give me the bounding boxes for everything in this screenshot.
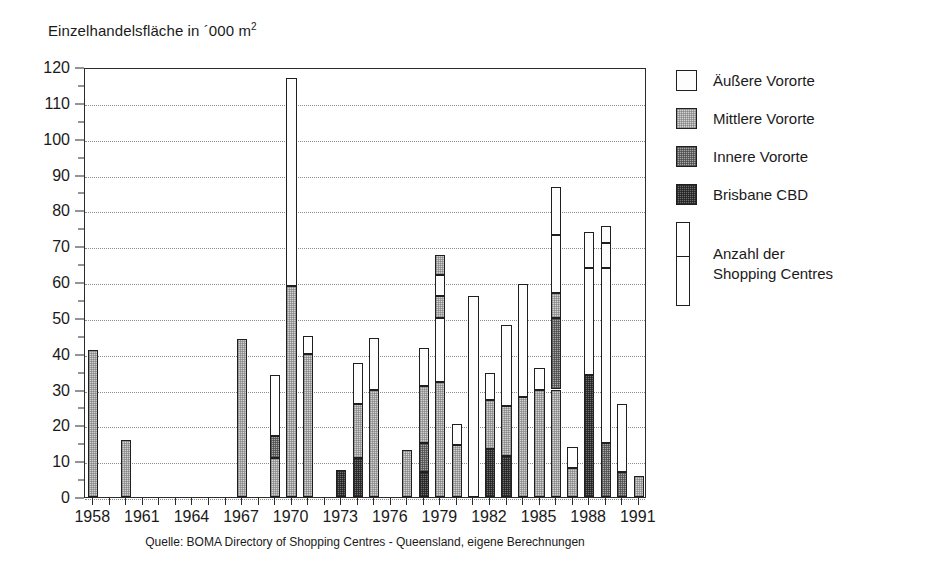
legend-count-label: Anzahl der Shopping Centres (713, 244, 833, 284)
bar-1983 (501, 325, 511, 497)
bar-segment-outer (452, 424, 462, 446)
bar-1977 (402, 450, 412, 497)
x-tick (109, 498, 110, 505)
x-tick (225, 498, 226, 505)
x-tick (241, 498, 242, 505)
bar-segment-middle (121, 440, 131, 497)
x-tick (638, 498, 639, 505)
x-tick (291, 498, 292, 505)
x-tick (357, 498, 358, 505)
bar-segment-cbd (336, 470, 346, 497)
x-tick (142, 498, 143, 505)
x-tick (175, 498, 176, 505)
legend-label-inner: Innere Vororte (713, 146, 808, 167)
x-tick-label: 1976 (372, 508, 408, 526)
x-tick-label: 1961 (124, 508, 160, 526)
bar-segment-inner (551, 318, 561, 390)
bar-1991 (634, 476, 644, 498)
bar-segment-outer (353, 363, 363, 404)
y-tick-label: 20 (52, 417, 70, 435)
source-note: Quelle: BOMA Directory of Shopping Centr… (84, 535, 646, 549)
x-tick (406, 498, 407, 505)
legend-label-middle: Mittlere Vororte (713, 108, 815, 129)
y-tick-label: 70 (52, 238, 70, 256)
bar-segment-middle (501, 406, 511, 456)
x-tick (340, 498, 341, 505)
bar-segment-inner (419, 443, 429, 472)
bar-segment-outer (584, 232, 594, 268)
x-tick (373, 498, 374, 505)
x-tick (489, 498, 490, 505)
x-tick-label: 1958 (74, 508, 110, 526)
bar-segment-middle (435, 296, 445, 318)
bar-segment-outer (551, 187, 561, 235)
y-tick-label: 10 (52, 453, 70, 471)
legend-entry-cbd: Brisbane CBD (676, 184, 921, 205)
bar-segment-middle (286, 286, 296, 497)
x-tick (324, 498, 325, 505)
y-tick-major (75, 354, 84, 355)
bar-1973 (336, 470, 346, 497)
x-tick-label: 1985 (521, 508, 557, 526)
y-tick-major (75, 462, 84, 463)
bar-segment-middle (435, 255, 445, 275)
bar-segment-outer (286, 78, 296, 286)
x-tick (439, 498, 440, 505)
bar-segment-inner (617, 472, 627, 497)
y-tick-label: 80 (52, 202, 70, 220)
x-tick (506, 498, 507, 505)
x-tick (572, 498, 573, 505)
bar-segment-middle (634, 476, 644, 498)
bar-segment-middle (237, 339, 247, 497)
bar-1980 (452, 424, 462, 497)
x-tick (390, 498, 391, 505)
retail-floorspace-chart: Einzelhandelsfläche in ´000 m2 010203040… (0, 0, 927, 569)
legend-swatch-cbd (676, 184, 697, 205)
bar-segment-outer (303, 336, 313, 354)
bar-segment-outer (419, 348, 429, 386)
x-tick-label: 1982 (471, 508, 507, 526)
legend-swatch-outer (676, 70, 697, 91)
bar-segment-outer (551, 235, 561, 292)
x-tick-label: 1973 (322, 508, 358, 526)
y-axis-title: Einzelhandelsfläche in ´000 m2 (48, 22, 257, 39)
legend-entry-inner: Innere Vororte (676, 146, 921, 167)
bar-segment-middle (534, 390, 544, 498)
bar-1960 (121, 440, 131, 497)
bar-1989 (601, 226, 611, 497)
bar-segment-middle (270, 458, 280, 497)
y-tick-major (75, 103, 84, 104)
bar-1982 (485, 373, 495, 497)
bar-segment-middle (435, 382, 445, 497)
x-tick (125, 498, 126, 505)
bar-1979 (435, 255, 445, 497)
legend-entry-middle: Mittlere Vororte (676, 108, 921, 129)
x-tick-label: 1970 (273, 508, 309, 526)
legend-label-outer: Äußere Vororte (713, 70, 815, 91)
bar-segment-middle (452, 445, 462, 497)
bar-1958 (88, 350, 98, 497)
x-tick-label: 1967 (223, 508, 259, 526)
bar-segment-middle (485, 400, 495, 448)
legend-swatch-inner (676, 146, 697, 167)
bar-segment-middle (551, 390, 561, 498)
bar-segment-middle (518, 397, 528, 497)
bar-segment-outer (270, 375, 280, 436)
x-tick (307, 498, 308, 505)
bar-1985 (534, 368, 544, 497)
x-tick (621, 498, 622, 505)
plot-area (84, 68, 646, 498)
legend-entries: Äußere VororteMittlere VororteInnere Vor… (676, 70, 921, 205)
y-tick-major (75, 283, 84, 284)
bar-segment-outer (534, 368, 544, 390)
legend-count-label-line2: Shopping Centres (713, 264, 833, 284)
bar-1988 (584, 232, 594, 497)
x-tick (274, 498, 275, 505)
y-tick-label: 60 (52, 274, 70, 292)
x-tick (555, 498, 556, 505)
x-tick (522, 498, 523, 505)
x-tick-label: 1964 (174, 508, 210, 526)
legend-entry-centre-count: Anzahl der Shopping Centres (676, 222, 921, 306)
bar-segment-outer (584, 268, 594, 376)
bar-series-group (85, 69, 645, 497)
